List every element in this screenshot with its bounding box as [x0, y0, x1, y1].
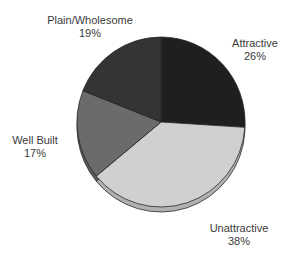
slice-label-unattractive: Unattractive 38% — [210, 222, 269, 248]
slice-label-attractive: Attractive 26% — [232, 37, 278, 63]
slice-percent: 17% — [12, 147, 58, 160]
slice-name: Plain/Wholesome — [47, 14, 133, 27]
slice-label-well-built: Well Built 17% — [12, 134, 58, 160]
slice-name: Well Built — [12, 134, 58, 147]
slice-name: Attractive — [232, 37, 278, 50]
slice-percent: 26% — [232, 50, 278, 63]
slice-percent: 38% — [210, 235, 269, 248]
slice-label-plain-wholesome: Plain/Wholesome 19% — [47, 14, 133, 40]
slice-name: Unattractive — [210, 222, 269, 235]
slice-percent: 19% — [47, 27, 133, 40]
pie-top-face — [77, 37, 245, 207]
